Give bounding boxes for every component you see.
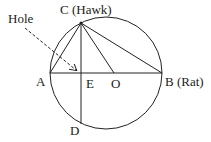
segment-CB bbox=[81, 23, 162, 73]
label-O: O bbox=[111, 77, 120, 90]
label-hole: Hole bbox=[8, 12, 33, 25]
label-C-hawk: C (Hawk) bbox=[60, 3, 112, 16]
segment-CO bbox=[81, 23, 114, 73]
geometry-diagram: C (Hawk) B (Rat) A E O D Hole bbox=[0, 0, 211, 142]
point-C bbox=[80, 22, 83, 25]
label-B-rat: B (Rat) bbox=[165, 75, 204, 88]
label-D: D bbox=[70, 124, 79, 137]
label-A: A bbox=[36, 75, 45, 88]
segment-CA bbox=[50, 23, 81, 73]
label-E: E bbox=[86, 77, 94, 90]
